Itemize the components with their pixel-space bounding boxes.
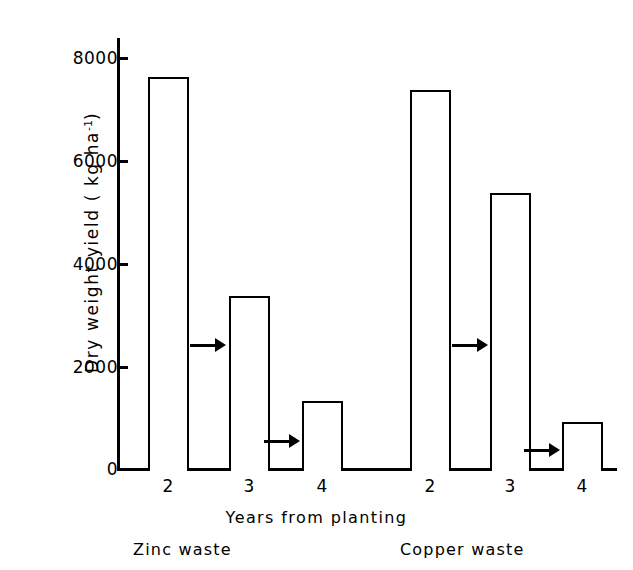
- y-tick-label-2000: 2000: [44, 357, 118, 377]
- y-tick-label-4000: 4000: [44, 254, 118, 274]
- y-tick-label-0: 0: [44, 459, 118, 479]
- bar-chart-figure: Dry weight yield ( kg ha-1) 8000 6000 40…: [0, 0, 633, 570]
- group-label-copper-waste: Copper waste: [400, 540, 525, 559]
- x-axis-title: Years from planting: [0, 508, 633, 527]
- arrow-right-icon-copper-year-4: [524, 443, 560, 457]
- x-tick-label-copper-2: 2: [410, 476, 450, 496]
- x-tick-label-copper-4: 4: [562, 476, 602, 496]
- y-axis-title-exponent: -1: [82, 120, 95, 131]
- y-axis-title-tail: ): [82, 112, 102, 120]
- arrow-right-icon-zinc-year-4: [264, 434, 300, 448]
- x-tick-label-copper-3: 3: [490, 476, 530, 496]
- y-tick-label-6000: 6000: [44, 151, 118, 171]
- y-tick-4000: [119, 263, 128, 266]
- bar-copper-year-2: [410, 90, 451, 471]
- x-tick-label-zinc-4: 4: [302, 476, 342, 496]
- y-tick-2000: [119, 366, 128, 369]
- bar-copper-year-4: [562, 422, 603, 471]
- y-tick-label-8000: 8000: [44, 48, 118, 68]
- arrow-right-icon-zinc-year-3: [190, 338, 226, 352]
- arrow-right-icon-copper-year-3: [452, 338, 488, 352]
- x-tick-label-zinc-2: 2: [148, 476, 188, 496]
- y-tick-8000: [119, 57, 128, 60]
- bar-zinc-year-4: [302, 401, 343, 471]
- bar-copper-year-3: [490, 193, 531, 471]
- y-tick-6000: [119, 160, 128, 163]
- x-tick-label-zinc-3: 3: [229, 476, 269, 496]
- x-axis-line: [117, 468, 617, 471]
- group-label-zinc-waste: Zinc waste: [133, 540, 232, 559]
- bar-zinc-year-2: [148, 77, 189, 471]
